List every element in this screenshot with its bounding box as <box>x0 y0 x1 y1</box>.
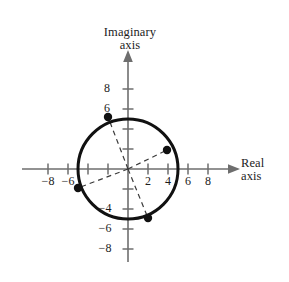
y-tick-label--6: −6 <box>92 221 118 236</box>
x-tick-label-2: 2 <box>139 174 157 189</box>
radius-to-root-3 <box>78 169 128 188</box>
radius-to-root-1 <box>108 117 128 169</box>
root-point-2 <box>163 146 171 154</box>
x-tick-label-8: 8 <box>199 174 217 189</box>
axes-group <box>22 50 240 262</box>
real-axis-arrowhead <box>228 164 240 174</box>
complex-plane-figure: Imaginary axis Real axis −8 −6 2 4 6 8 8… <box>0 0 289 282</box>
imaginary-axis-title: Imaginary axis <box>90 26 170 52</box>
y-tick-label-8: 8 <box>98 81 116 96</box>
real-axis-title: Real axis <box>241 157 289 183</box>
imaginary-axis-arrowhead <box>123 50 133 62</box>
x-tick-label-4: 4 <box>159 174 177 189</box>
x-tick-label-6: 6 <box>179 174 197 189</box>
y-tick-label-6: 6 <box>98 101 116 116</box>
x-tick-label--6: −6 <box>54 174 82 189</box>
root-point-4 <box>144 214 152 222</box>
y-tick-label--8: −8 <box>92 241 118 256</box>
y-tick-label--4: −4 <box>92 201 118 216</box>
